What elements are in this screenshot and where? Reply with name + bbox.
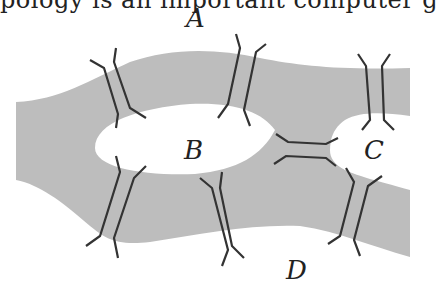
label-b: B [183, 135, 203, 165]
label-c: C [364, 135, 384, 165]
label-d: D [285, 255, 307, 285]
label-a: A [184, 3, 205, 33]
